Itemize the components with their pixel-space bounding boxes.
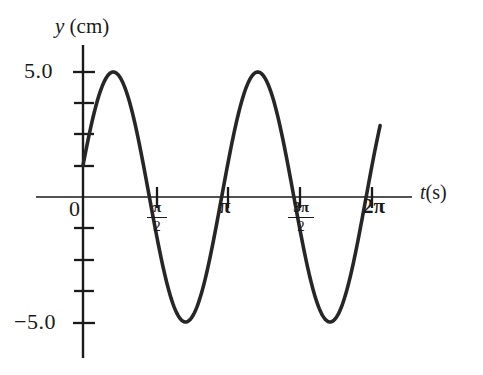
y-axis-title: y (cm) [55, 16, 109, 37]
x-tick-label-pi: π [219, 196, 231, 217]
fraction-numerator: 3π [286, 200, 316, 216]
x-tick-label-pi-over-2: π 2 [145, 200, 169, 235]
y-axis-variable: y [55, 14, 64, 38]
y-tick-label-5: 5.0 [24, 60, 53, 82]
figure-background [0, 0, 483, 375]
y-axis-unit: (cm) [70, 14, 110, 38]
x-tick-label-3pi-over-2: 3π 2 [286, 200, 316, 235]
x-axis-title: t(s) [420, 182, 447, 202]
fraction-denominator: 2 [145, 219, 169, 235]
oscillation-graph [0, 0, 483, 375]
y-tick-label-minus5: −5.0 [14, 311, 56, 333]
origin-label: 0 [69, 198, 80, 220]
fraction-numerator: π [145, 200, 169, 216]
fraction-denominator: 2 [286, 219, 316, 235]
x-tick-label-2pi: 2π [363, 196, 385, 217]
x-axis-unit: (s) [426, 181, 447, 203]
